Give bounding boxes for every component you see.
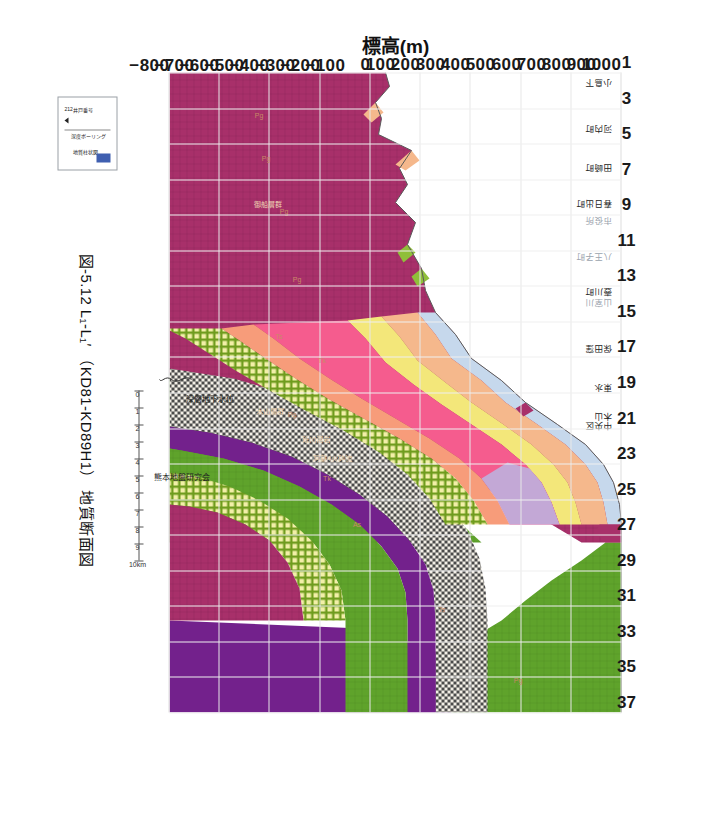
distance-tick-label: 19: [617, 372, 636, 392]
legend-borehole-bar: [96, 153, 110, 162]
figure-caption: 図-5.12 L₁-L₁′ （KD81-KD89H1） 地質断面図: [76, 0, 97, 820]
grid-line-vertical: [169, 108, 621, 109]
distance-tick-label: 35: [617, 656, 636, 676]
source-credit: 熊本地盤研究会: [153, 470, 209, 481]
distance-tick-label: 1: [621, 52, 630, 72]
grid-line-vertical: [169, 641, 621, 642]
place-name-label: 田崎町: [584, 162, 611, 174]
grid-line-vertical: [169, 499, 621, 500]
distance-tick-label: 13: [617, 265, 636, 285]
grid-line-vertical: [169, 356, 621, 357]
grid-line-vertical: [169, 143, 621, 144]
grid-line-vertical: [169, 712, 621, 713]
grid-line-vertical: [169, 72, 621, 73]
place-name-label: 小島下: [584, 77, 611, 89]
scale-tick-label: 1: [135, 407, 139, 414]
scale-tick-label: 6: [135, 492, 139, 499]
distance-tick-label: 21: [617, 408, 636, 428]
grid-line-vertical: [169, 534, 621, 535]
distance-tick-label: 37: [617, 692, 636, 712]
grid-line-vertical: [169, 428, 621, 429]
geological-cross-section-figure: 10009008007006005004003002001000−100−200…: [0, 0, 709, 820]
scale-tick-label: 7: [135, 509, 139, 516]
distance-tick-label: 5: [621, 123, 630, 143]
legend-well-number: 212: [64, 105, 72, 111]
elevation-tick-label: −800: [129, 55, 169, 75]
cross-section-plot-area: 10009008007006005004003002001000−100−200…: [169, 72, 621, 712]
grid-line-vertical: [169, 605, 621, 606]
scale-tick-label: 4: [135, 458, 139, 465]
groundwater-level-annotation: 深層地下水位: [185, 392, 233, 403]
distance-tick-label: 29: [617, 550, 636, 570]
grid-line-vertical: [169, 676, 621, 677]
distance-tick-label: 7: [621, 159, 630, 179]
place-name-label: 春日出町: [575, 198, 611, 210]
groundwater-squiggle-icon: [157, 372, 193, 386]
grid-line-vertical: [169, 321, 621, 322]
distance-tick-label: 25: [617, 479, 636, 499]
rotated-figure-canvas: 10009008007006005004003002001000−100−200…: [0, 0, 709, 820]
distance-tick-label: 9: [621, 194, 630, 214]
scale-tick-label: 2: [135, 424, 139, 431]
grid-line-vertical: [169, 179, 621, 180]
distance-tick-label: 11: [617, 230, 635, 250]
distance-tick-label: 3: [621, 88, 630, 108]
grid-line-vertical: [169, 214, 621, 215]
distance-tick-label: 15: [617, 301, 636, 321]
legend-marker-triangle-icon: [64, 117, 68, 123]
grid-line-vertical: [169, 285, 621, 286]
grid-line-vertical: [169, 392, 621, 393]
scale-tick-label: 8: [135, 526, 139, 533]
horizontal-scale-bar: 012345678910km: [123, 390, 153, 560]
place-name-label: 市役所: [584, 215, 611, 227]
place-name-label: 八王子町: [575, 251, 611, 263]
place-name-label: 河内町: [584, 123, 611, 135]
scale-tick-label: 9: [135, 543, 139, 550]
grid-line-vertical: [169, 250, 621, 251]
place-name-label: 保田窪: [584, 343, 611, 355]
grid-line-vertical: [169, 463, 621, 464]
place-name-label: 中央区: [584, 420, 611, 432]
place-name-label: 山室川: [584, 297, 611, 309]
distance-tick-label: 33: [617, 621, 636, 641]
scale-tick-label: 0: [135, 390, 139, 397]
scale-tick-label: 3: [135, 441, 139, 448]
scale-tick-label: 5: [135, 475, 139, 482]
distance-tick-label: 27: [617, 514, 636, 534]
distance-tick-label: 23: [617, 443, 636, 463]
distance-tick-label: 17: [617, 336, 636, 356]
grid-line-vertical: [169, 570, 621, 571]
elevation-axis-title: 標高(m): [361, 30, 429, 57]
distance-tick-label: 31: [617, 585, 636, 605]
scale-tick-label: 10km: [128, 560, 145, 567]
